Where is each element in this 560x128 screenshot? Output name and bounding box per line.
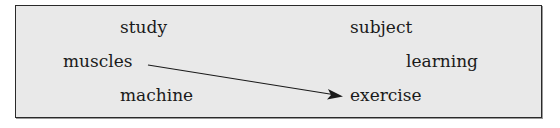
arrow-muscles-to-exercise xyxy=(0,0,560,128)
